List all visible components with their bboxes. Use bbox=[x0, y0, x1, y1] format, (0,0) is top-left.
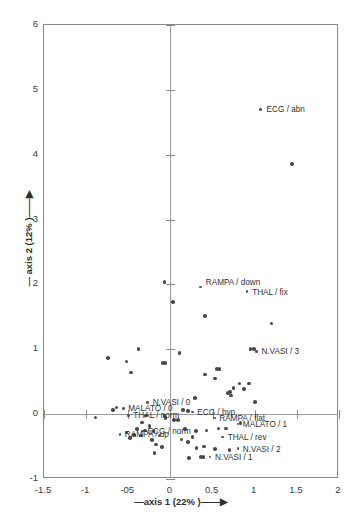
x-tick-label: 1 bbox=[239, 484, 269, 495]
x-tick-label: 2 bbox=[323, 484, 353, 495]
x-tick-label: -1 bbox=[70, 484, 100, 495]
scatter-plot-figure: ECG / abnRAMPA / downTHAL / fixN.VASI / … bbox=[0, 0, 362, 530]
x-axis-tick-labels: -1.5-1-0500.511.52 bbox=[0, 0, 362, 530]
x-tick-label: 0 bbox=[154, 484, 184, 495]
y-axis-title: — axis 2 (12% )——▶ bbox=[23, 159, 34, 319]
x-tick-label: 0.5 bbox=[197, 484, 227, 495]
x-axis-title: —axis 1 (22% )——▶ bbox=[0, 496, 362, 507]
x-tick-label: -05 bbox=[112, 484, 142, 495]
x-tick-label: -1.5 bbox=[28, 484, 58, 495]
x-tick-label: 1.5 bbox=[281, 484, 311, 495]
